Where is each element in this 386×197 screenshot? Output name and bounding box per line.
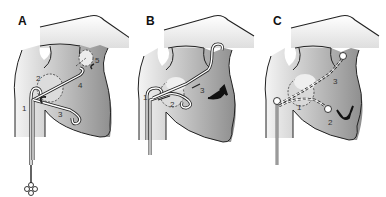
label-1: 1 <box>22 104 26 113</box>
label-4: 4 <box>78 81 82 90</box>
panel-letter-b: B <box>146 14 155 28</box>
label-2: 2 <box>328 118 332 127</box>
label-3: 3 <box>333 77 337 86</box>
panel-a: A 1 2 3 4 5 <box>0 0 129 197</box>
panel-b: B 1 2 3 <box>128 0 257 197</box>
heart-diagram-c <box>257 0 386 197</box>
heart-diagram-a <box>0 0 129 197</box>
label-2: 2 <box>170 100 174 109</box>
label-1: 1 <box>143 93 147 102</box>
panel-c: C 1 2 3 <box>257 0 386 197</box>
panel-letter-a: A <box>18 14 27 28</box>
label-3: 3 <box>58 110 62 119</box>
label-1: 1 <box>297 103 301 112</box>
label-2: 2 <box>36 74 40 83</box>
label-5: 5 <box>95 56 99 65</box>
panel-letter-c: C <box>273 14 282 28</box>
label-3: 3 <box>200 86 204 95</box>
